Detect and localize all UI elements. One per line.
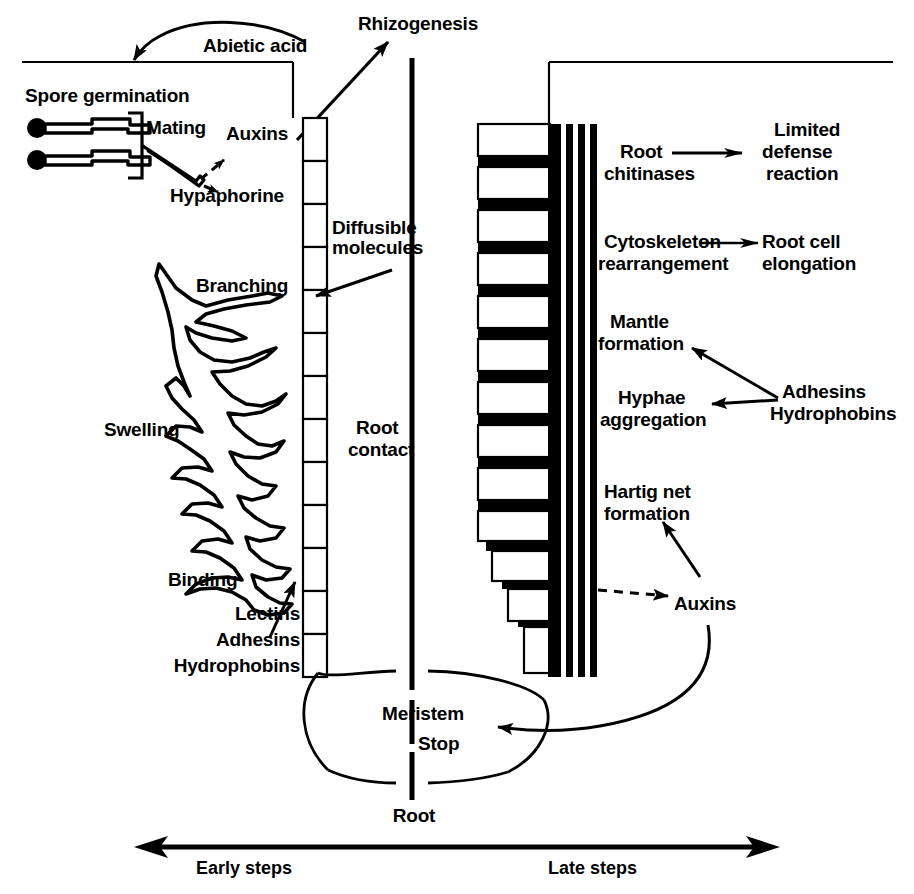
- arrow-adhesins-hydrophobins-to-hyphae-aggregation: [712, 400, 778, 404]
- label-stop: Stop: [418, 734, 459, 754]
- label-branching: Branching: [196, 276, 288, 296]
- label-root-contact-line2: contact: [348, 440, 414, 460]
- germinating-spore-icon: [27, 118, 150, 138]
- label-spore-germination: Spore germination: [25, 86, 189, 106]
- label-auxins-bottom: Auxins: [674, 594, 736, 614]
- label-adhesins-left: Adhesins: [216, 630, 300, 650]
- label-hartig-net-line1: Hartig net: [604, 482, 691, 502]
- label-lectins: Lectins: [235, 604, 300, 624]
- label-hyphae-aggregation-line2: aggregation: [600, 410, 707, 430]
- label-diffusible-molecules-line2: molecules: [332, 238, 423, 258]
- colonized-root-cell-column-icon: [478, 124, 550, 673]
- ectomycorrhiza-diagram: Abietic acid Rhizogenesis Spore germinat…: [0, 0, 914, 894]
- label-root-cell-elongation-line2: elongation: [762, 254, 856, 274]
- label-root-chitinases-line2: chitinases: [604, 164, 695, 184]
- mating-hypha-icon: [143, 146, 204, 186]
- label-binding: Binding: [168, 570, 237, 590]
- label-late-steps: Late steps: [548, 858, 637, 879]
- dashed-arrow-auxins-to-root: [598, 590, 668, 596]
- label-adhesins-right: Adhesins: [782, 382, 866, 402]
- label-mantle-formation-line2: formation: [598, 334, 684, 354]
- label-abietic-acid: Abietic acid: [203, 36, 307, 56]
- label-root-cell-elongation-line1: Root cell: [762, 232, 840, 252]
- double-headed-timeline-arrow: [134, 836, 780, 858]
- label-hydrophobins-right: Hydrophobins: [770, 404, 896, 424]
- label-root-axis: Root: [393, 806, 435, 826]
- label-limited-defense-line2: defense: [762, 142, 832, 162]
- label-hyphae-aggregation-line1: Hyphae: [618, 388, 685, 408]
- label-mantle-formation-line1: Mantle: [610, 312, 669, 332]
- germinating-spore-icon: [27, 150, 150, 170]
- label-swelling: Swelling: [104, 420, 179, 440]
- arrow-auxins-to-hartig-net-formation: [663, 522, 700, 577]
- label-auxins-top: Auxins: [226, 124, 288, 144]
- dashed-arrow-mating-to-auxins: [201, 160, 224, 179]
- fungal-mantle-icon: [548, 124, 597, 677]
- label-meristem: Meristem: [382, 704, 464, 724]
- label-hydrophobins-left: Hydrophobins: [174, 656, 300, 676]
- label-root-chitinases-line1: Root: [620, 142, 662, 162]
- label-hartig-net-line2: formation: [604, 504, 690, 524]
- label-cytoskeleton-line2: rearrangement: [598, 254, 728, 274]
- label-diffusible-molecules-line1: Diffusible: [332, 218, 417, 238]
- label-limited-defense-line1: Limited: [774, 120, 840, 140]
- label-cytoskeleton-line1: Cytoskeleton: [604, 232, 721, 252]
- label-hypaphorine: Hypaphorine: [170, 186, 284, 206]
- label-early-steps: Early steps: [196, 858, 292, 879]
- label-mating: Mating: [146, 118, 206, 138]
- label-root-contact-line1: Root: [356, 418, 398, 438]
- label-rhizogenesis: Rhizogenesis: [358, 14, 478, 34]
- root-epidermis-cell-column-icon: [303, 118, 327, 677]
- root-tip-cone-icon: [304, 671, 548, 783]
- arrow-adhesins-hydrophobins-to-mantle-formation: [692, 348, 778, 398]
- label-limited-defense-line3: reaction: [766, 164, 838, 184]
